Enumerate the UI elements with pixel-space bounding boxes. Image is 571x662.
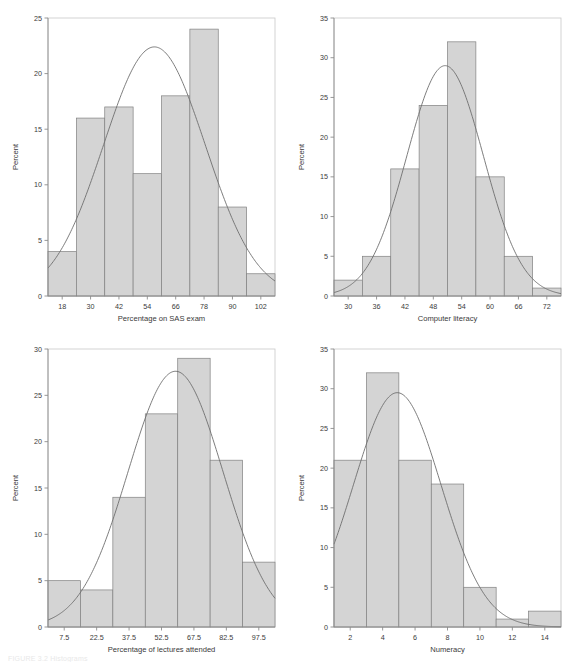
histogram-bar	[504, 256, 532, 296]
x-tick-label: 82.5	[219, 633, 233, 642]
histogram-bar	[247, 274, 275, 296]
histogram-bar	[190, 29, 218, 296]
x-tick-label: 72	[543, 302, 551, 311]
bars	[334, 373, 561, 627]
x-tick-label: 22.5	[90, 633, 104, 642]
x-tick-label: 54	[458, 302, 466, 311]
x-tick-label: 60	[486, 302, 494, 311]
x-axis-ticks: 18304254667890102	[58, 296, 267, 311]
y-tick-label: 25	[320, 93, 328, 102]
histogram-bar	[464, 587, 496, 627]
x-tick-label: 30	[87, 302, 95, 311]
y-tick-label: 0	[324, 623, 328, 632]
histogram-bar	[48, 581, 80, 627]
y-tick-label: 0	[38, 623, 42, 632]
svg-text:Percent: Percent	[297, 474, 306, 501]
x-tick-label: 66	[172, 302, 180, 311]
y-tick-label: 20	[320, 464, 328, 473]
y-tick-label: 35	[320, 345, 328, 354]
figure-page: 051015202518304254667890102Percentage on…	[0, 0, 571, 662]
x-tick-label: 8	[446, 633, 450, 642]
x-tick-label: 6	[413, 633, 417, 642]
y-axis-title: Percent	[11, 474, 20, 501]
y-axis-ticks: 05101520253035	[320, 345, 334, 632]
x-tick-label: 12	[508, 633, 516, 642]
x-axis-ticks: 7.522.537.552.567.582.597.5	[59, 627, 266, 642]
histogram-bar	[105, 107, 133, 296]
histogram-bar	[48, 252, 76, 296]
x-tick-label: 4	[381, 633, 385, 642]
histogram-bar	[391, 169, 419, 296]
y-axis-ticks: 051015202530	[34, 345, 48, 632]
x-tick-label: 54	[143, 302, 151, 311]
x-tick-label: 67.5	[187, 633, 201, 642]
x-tick-label: 52.5	[155, 633, 169, 642]
x-axis-ticks: 2468101214	[348, 627, 549, 642]
histogram-bar	[76, 118, 104, 296]
y-tick-label: 10	[34, 530, 42, 539]
y-tick-label: 0	[38, 292, 42, 301]
histogram-panel-sas-exam: 051015202518304254667890102Percentage on…	[0, 0, 285, 331]
x-tick-label: 97.5	[252, 633, 266, 642]
histogram-bar	[145, 414, 177, 627]
y-tick-label: 15	[320, 172, 328, 181]
svg-text:Percent: Percent	[11, 474, 20, 501]
x-axis-title: Percentage on SAS exam	[118, 314, 205, 323]
x-tick-label: 48	[429, 302, 437, 311]
bars	[48, 29, 275, 296]
x-tick-label: 37.5	[122, 633, 136, 642]
x-tick-label: 14	[541, 633, 549, 642]
x-axis-ticks: 3036424854606672	[344, 296, 551, 311]
x-tick-label: 30	[344, 302, 352, 311]
y-tick-label: 5	[38, 236, 42, 245]
histogram-panel-lectures-attended: 0510152025307.522.537.552.567.582.597.5P…	[0, 331, 285, 662]
histogram-bar	[178, 358, 210, 627]
y-axis-ticks: 05101520253035	[320, 14, 334, 301]
histogram-bar	[399, 460, 431, 627]
x-axis-title: Numeracy	[430, 645, 465, 654]
y-tick-label: 5	[324, 252, 328, 261]
y-tick-label: 10	[320, 543, 328, 552]
y-axis-title: Percent	[297, 474, 306, 501]
histogram-bar	[218, 207, 246, 296]
x-tick-label: 18	[58, 302, 66, 311]
histogram-bar	[529, 611, 561, 627]
y-tick-label: 20	[320, 133, 328, 142]
figure-caption: FIGURE 3.2 Histograms	[8, 654, 88, 662]
y-tick-label: 10	[34, 180, 42, 189]
histogram-bar	[334, 460, 366, 627]
histogram-bar	[162, 96, 190, 296]
histogram-bar	[362, 256, 390, 296]
histogram-bar	[133, 174, 161, 296]
x-tick-label: 2	[348, 633, 352, 642]
y-tick-label: 20	[34, 437, 42, 446]
y-tick-label: 30	[34, 345, 42, 354]
x-tick-label: 36	[373, 302, 381, 311]
y-axis-title: Percent	[11, 143, 20, 170]
bars	[48, 358, 275, 627]
y-tick-label: 30	[320, 53, 328, 62]
y-tick-label: 10	[320, 212, 328, 221]
histogram-panel-numeracy: 051015202530352468101214NumeracyPercent	[286, 331, 571, 662]
y-axis-ticks: 0510152025	[34, 14, 48, 301]
histogram-bar	[448, 42, 476, 296]
svg-text:Percent: Percent	[297, 143, 306, 170]
y-tick-label: 30	[320, 384, 328, 393]
histogram-panel-computer-literacy: 051015202530353036424854606672Computer l…	[286, 0, 571, 331]
svg-text:Percent: Percent	[11, 143, 20, 170]
y-tick-label: 15	[34, 125, 42, 134]
x-tick-label: 90	[228, 302, 236, 311]
x-tick-label: 102	[255, 302, 267, 311]
y-tick-label: 20	[34, 69, 42, 78]
histogram-bar	[210, 460, 242, 627]
y-tick-label: 25	[34, 391, 42, 400]
x-axis-title: Computer literacy	[418, 314, 478, 323]
y-tick-label: 35	[320, 14, 328, 23]
x-tick-label: 42	[401, 302, 409, 311]
histogram-bar	[334, 280, 362, 296]
histogram-bar	[80, 590, 112, 627]
x-axis-title: Percentage of lectures attended	[108, 645, 216, 654]
histogram-bar	[366, 373, 398, 627]
y-tick-label: 15	[34, 484, 42, 493]
y-tick-label: 0	[324, 292, 328, 301]
